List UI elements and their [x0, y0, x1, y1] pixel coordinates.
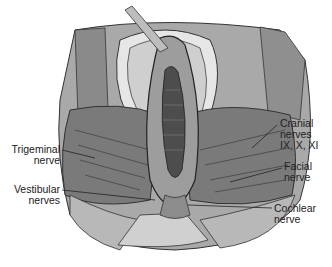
- label-line: nerve: [284, 172, 312, 183]
- label-facial-nerve: Facial nerve: [284, 161, 312, 183]
- label-line: nerve: [274, 214, 316, 225]
- label-line: nerves: [0, 195, 60, 206]
- label-line: IX, X, XI: [280, 140, 319, 151]
- label-cochlear-nerve: Cochlear nerve: [274, 203, 316, 225]
- label-cranial-nerves: Cranial nerves IX, X, XI: [280, 118, 319, 151]
- nerve-bundle: [160, 195, 190, 219]
- label-line: nerve: [0, 155, 60, 166]
- label-vestibular-nerves: Vestibular nerves: [0, 184, 60, 206]
- left-cerebellum: [62, 106, 160, 204]
- right-cerebellum: [185, 108, 296, 205]
- label-trigeminal-nerve: Trigeminal nerve: [0, 144, 60, 166]
